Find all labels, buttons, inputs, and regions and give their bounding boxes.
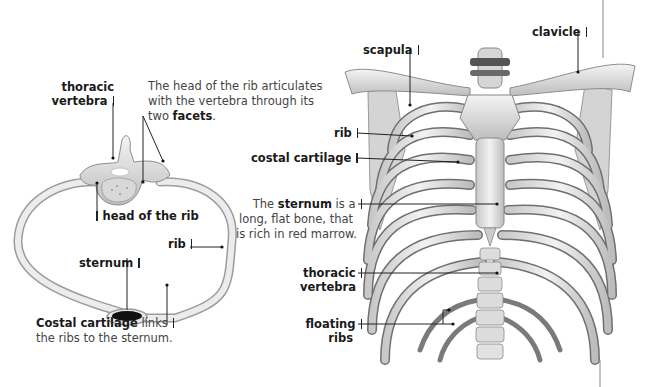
rib-cage-anterior [345,0,635,387]
thoracic-spine [476,248,504,359]
left-clavicle [345,69,470,96]
label-sternum-note: The sternum is a long, flat bone, that i… [236,197,362,242]
label-clavicle: clavicle [532,25,587,39]
sternum [476,138,504,228]
label-rib-right: rib [334,126,358,140]
rib-cage-diagram: thoracic vertebra The head of the rib ar… [0,0,652,387]
label-thoracic-vertebra-left: thoracic vertebra [48,80,114,108]
label-thoracic-vertebra-right: thoracic vertebra [300,266,362,294]
label-facets-note: The head of the rib articulates with the… [148,79,322,124]
label-rib-left: rib [168,237,192,251]
label-floating-ribs: floating ribs [300,317,362,345]
label-sternum-left: sternum [79,256,140,270]
label-head-of-rib: head of the rib [96,209,199,223]
label-costal-cartilage-right: costal cartilage [251,151,358,165]
right-clavicle [510,64,635,96]
label-costal-cartilage-note: Costal cartilage links the ribs to the s… [36,316,172,346]
label-scapula: scapula [363,43,419,57]
